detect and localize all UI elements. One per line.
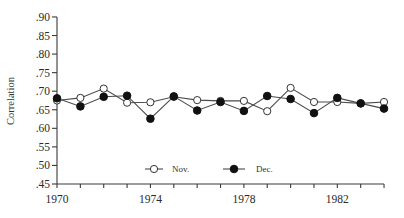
filled-circle-marker-icon (263, 92, 271, 100)
legend-label-nov: Nov. (172, 164, 189, 174)
y-tick-label: .75 (36, 67, 51, 79)
series-layer (53, 84, 388, 122)
open-circle-marker-icon (124, 99, 131, 106)
open-circle-marker-icon (194, 97, 201, 104)
filled-circle-marker-icon (357, 100, 365, 108)
y-tick-label: .85 (36, 30, 51, 42)
y-tick-label: .60 (36, 122, 51, 134)
filled-circle-marker-icon (287, 95, 295, 103)
y-tick-label: .50 (36, 159, 51, 171)
y-axis-title: Correlation (5, 76, 16, 125)
filled-circle-marker-icon (380, 105, 388, 113)
open-circle-marker-icon (240, 97, 247, 104)
open-circle-marker-icon (310, 98, 317, 105)
filled-circle-marker-icon (230, 165, 238, 173)
legend-item-nov: Nov. (145, 164, 189, 174)
open-circle-marker-icon (77, 94, 84, 101)
filled-circle-marker-icon (334, 94, 342, 102)
filled-circle-marker-icon (123, 92, 131, 100)
open-circle-marker-icon (287, 84, 294, 91)
y-tick-label: .55 (36, 141, 51, 153)
filled-circle-marker-icon (100, 93, 108, 101)
filled-circle-marker-icon (240, 107, 248, 115)
open-circle-marker-icon (264, 108, 271, 115)
filled-circle-marker-icon (170, 93, 178, 101)
y-tick-label: .90 (36, 11, 51, 23)
open-circle-marker-icon (147, 99, 154, 106)
legend-item-dec: Dec. (223, 164, 273, 174)
legend-label-dec: Dec. (256, 164, 273, 174)
x-tick-label: 1982 (326, 193, 349, 205)
filled-circle-marker-icon (217, 98, 225, 106)
filled-circle-marker-icon (53, 95, 61, 103)
y-tick-label: .80 (36, 48, 51, 60)
x-tick-label: 1974 (139, 193, 162, 205)
y-tick-label: .65 (36, 104, 51, 116)
filled-circle-marker-icon (147, 115, 155, 123)
filled-circle-marker-icon (77, 103, 85, 111)
filled-circle-marker-icon (193, 107, 201, 115)
open-circle-marker-icon (100, 85, 107, 92)
x-tick-label: 1970 (46, 193, 69, 205)
y-tick-label: .70 (36, 85, 51, 97)
y-tick-label: .45 (36, 178, 51, 190)
x-tick-label: 1978 (232, 193, 255, 205)
correlation-line-chart: Correlation .45.50.55.60.65.70.75.80.85.… (0, 0, 404, 218)
filled-circle-marker-icon (310, 109, 318, 117)
open-circle-marker-icon (150, 165, 157, 172)
x-axis: 1970197419781982 (46, 184, 385, 205)
legend: Nov. Dec. (145, 164, 273, 174)
